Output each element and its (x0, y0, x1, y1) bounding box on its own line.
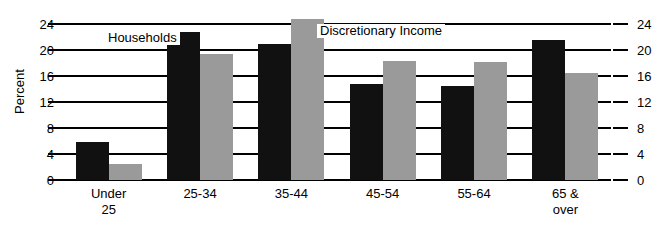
bar-discretionary-income-25-34 (200, 54, 233, 180)
tick-mark (613, 153, 628, 155)
x-tick-label: 55-64 (429, 186, 519, 202)
bar-households-55-64 (441, 86, 474, 180)
bar-chart: Percent 04812162024 04812162024 Househol… (0, 0, 666, 225)
tick-mark (48, 179, 63, 181)
x-tick-label-line: 55-64 (429, 186, 519, 202)
y-tick-label-right: 4 (637, 148, 663, 161)
bar-households-under-25 (76, 142, 109, 180)
tick-mark (48, 75, 63, 77)
y-tick-label-right: 8 (637, 122, 663, 135)
x-tick-label-line: 25 (64, 202, 154, 218)
bar-discretionary-income-65-over (565, 73, 598, 180)
tick-mark (613, 23, 628, 25)
plot-area (63, 24, 611, 180)
bar-households-45-54 (350, 84, 383, 180)
y-tick-label-right: 12 (637, 96, 663, 109)
tick-mark (613, 75, 628, 77)
x-tick-label: Under25 (64, 186, 154, 219)
x-tick-label-line: 35-44 (246, 186, 336, 202)
tick-mark (613, 49, 628, 51)
x-tick-label-line: 45-54 (338, 186, 428, 202)
series-annotation-households: Households (105, 31, 180, 45)
x-tick-label: 45-54 (338, 186, 428, 202)
bar-households-35-44 (258, 44, 291, 181)
tick-mark (613, 101, 628, 103)
bar-households-65-over (532, 40, 565, 180)
x-tick-label: 35-44 (246, 186, 336, 202)
y-tick-label-right: 20 (637, 44, 663, 57)
bar-discretionary-income-35-44 (291, 19, 324, 180)
y-tick-label-right: 0 (637, 174, 663, 187)
tick-mark (48, 127, 63, 129)
series-annotation-discretionary: Discretionary Income (317, 24, 445, 38)
x-tick-label: 65 &over (520, 186, 610, 219)
bar-discretionary-income-under-25 (109, 164, 142, 180)
y-axis-ticks-right: 04812162024 (637, 0, 663, 225)
x-tick-label-line: Under (64, 186, 154, 202)
y-tick-label-right: 24 (637, 18, 663, 31)
x-tick-label-line: 25-34 (155, 186, 245, 202)
y-axis-ticks-left: 04812162024 (28, 0, 54, 225)
x-tick-label: 25-34 (155, 186, 245, 202)
x-tick-label-line: 65 & (520, 186, 610, 202)
x-tick-label-line: over (520, 202, 610, 218)
tick-mark (48, 23, 63, 25)
y-tick-label-right: 16 (637, 70, 663, 83)
bar-households-25-34 (167, 32, 200, 180)
bar-discretionary-income-55-64 (474, 62, 507, 180)
y-axis-title: Percent (12, 42, 27, 142)
tick-mark (48, 153, 63, 155)
tick-mark (613, 179, 628, 181)
tick-mark (48, 101, 63, 103)
tick-mark (613, 127, 628, 129)
tick-mark (48, 49, 63, 51)
bar-discretionary-income-45-54 (383, 61, 416, 180)
